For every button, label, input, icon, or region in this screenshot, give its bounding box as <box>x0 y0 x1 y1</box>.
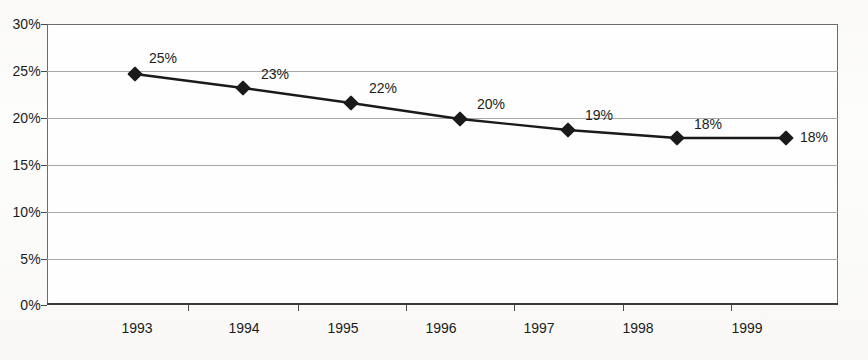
x-axis-tick-label: 1997 <box>523 320 554 336</box>
x-axis-tick-mark <box>514 305 515 311</box>
y-axis-tick-label: 10% <box>12 204 41 220</box>
chart-screenshot: 30% 25% 20% 15% 10% 5% 0% 25% 23% 22% 2 <box>0 0 868 360</box>
data-point-label: 18% <box>694 116 722 132</box>
y-axis-tick-mark <box>41 305 47 306</box>
data-point-label: 25% <box>149 50 177 66</box>
data-point-label: 23% <box>261 66 289 82</box>
y-axis-tick-label: 25% <box>12 63 41 79</box>
series-line <box>47 24 838 305</box>
y-axis-tick-label: 15% <box>12 157 41 173</box>
y-axis-tick-label: 30% <box>12 16 41 32</box>
x-axis-tick-mark <box>298 305 299 311</box>
x-axis-tick-mark <box>406 305 407 311</box>
x-axis-tick-label: 1999 <box>731 320 762 336</box>
data-point-label: 20% <box>477 96 505 112</box>
x-axis-tick-mark <box>188 305 189 311</box>
x-axis-tick-label: 1993 <box>121 320 152 336</box>
x-axis-tick-label: 1996 <box>425 320 456 336</box>
plot-area: 25% 23% 22% 20% 19% 18% 18% <box>47 24 838 305</box>
x-axis-tick-label: 1998 <box>622 320 653 336</box>
data-point-label: 18% <box>800 129 828 145</box>
data-point-label: 19% <box>585 107 613 123</box>
y-axis-tick-label: 5% <box>20 251 41 267</box>
x-axis-tick-mark <box>731 305 732 311</box>
data-point-label: 22% <box>369 80 397 96</box>
x-axis-tick-mark <box>623 305 624 311</box>
y-axis-tick-label: 0% <box>20 297 41 313</box>
x-axis-tick-label: 1995 <box>327 320 358 336</box>
y-axis-tick-label: 20% <box>12 110 41 126</box>
x-axis-tick-label: 1994 <box>228 320 259 336</box>
y-axis-labels: 30% 25% 20% 15% 10% 5% 0% <box>0 0 41 360</box>
